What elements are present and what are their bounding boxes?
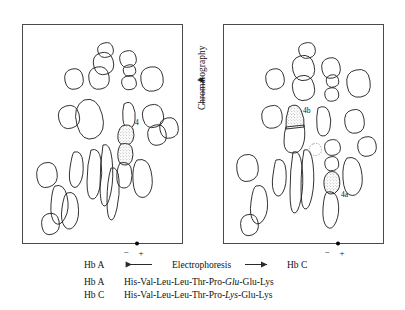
- sequence-text-hb-c: His-Val-Leu-Leu-Thr-Pro-Lys-Glu-Lys: [124, 290, 273, 300]
- spot-label-4b: 4b: [303, 106, 311, 115]
- chromatography-axis-label: Chromatography: [197, 45, 207, 110]
- polarity-minus-left: −: [123, 247, 128, 257]
- origin-dot-left: [135, 242, 139, 246]
- sequence-text-hb-a: His-Val-Leu-Leu-Thr-Pro-Glu-Glu-Lys: [124, 277, 274, 287]
- panel-hb-a: 4: [23, 25, 183, 246]
- spot-4a-stippled: [324, 172, 340, 195]
- polarity-minus-right: −: [324, 247, 329, 257]
- sequence-pre-hb-c: His-Val-Leu-Leu-Thr-Pro-: [124, 290, 225, 300]
- chromatography-axis: Chromatography: [197, 45, 207, 110]
- sequence-post-hb-a: -Glu-Lys: [239, 277, 274, 287]
- sequence-post-hb-c: -Glu-Lys: [238, 290, 273, 300]
- polarity-plus-right: +: [339, 248, 344, 258]
- spot-4-stippled: [118, 125, 134, 145]
- sample-label-hb-a: Hb A: [84, 260, 104, 270]
- sequence-pre-hb-a: His-Val-Leu-Leu-Thr-Pro-: [124, 277, 225, 287]
- sequence-highlight-hb-a: Glu: [225, 277, 240, 287]
- polarity-plus-left: +: [138, 248, 143, 258]
- spot-label-4a: 4a: [341, 190, 349, 199]
- sequence-highlight-hb-c: Lys: [224, 290, 238, 300]
- panel-hb-c-frame: [224, 25, 384, 244]
- sample-label-hb-c: Hb C: [287, 260, 307, 270]
- origin-dot-right: [336, 242, 340, 246]
- sequence-name-hb-c: Hb C: [84, 290, 104, 300]
- panel-hb-c: 4b 4a: [224, 25, 384, 246]
- spot-label-4: 4: [135, 118, 139, 127]
- sequence-name-hb-a: Hb A: [84, 277, 104, 287]
- peptide-fingerprint-figure: 4: [0, 0, 405, 310]
- electrophoresis-axis-label: Electrophoresis: [172, 260, 231, 270]
